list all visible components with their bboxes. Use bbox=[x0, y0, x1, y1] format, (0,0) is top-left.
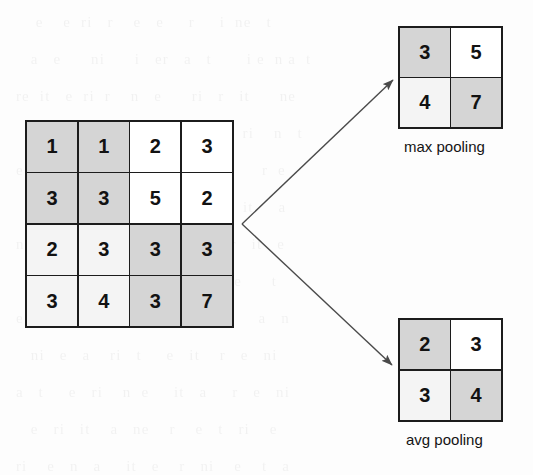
input-cell-r2c1: 3 bbox=[79, 225, 129, 275]
max-cell-r0c0: 3 bbox=[400, 28, 450, 77]
input-cell-r1c0: 3 bbox=[27, 173, 77, 223]
arrow-to-max-pooling bbox=[242, 80, 393, 224]
input-cell-r2c2: 3 bbox=[130, 225, 180, 275]
input-cell-r0c1: 1 bbox=[79, 122, 129, 172]
avg-cell-r0c1: 3 bbox=[451, 320, 501, 369]
avg-pooling-caption: avg pooling bbox=[406, 431, 483, 448]
avg-cell-r1c0: 3 bbox=[400, 371, 450, 420]
input-cell-r3c0: 3 bbox=[27, 276, 77, 326]
avg-pooling-output-grid: 2 3 3 4 bbox=[398, 318, 503, 422]
max-cell-r1c1: 7 bbox=[451, 78, 501, 127]
input-cell-r1c1: 3 bbox=[79, 173, 129, 223]
arrow-to-avg-pooling bbox=[242, 224, 392, 365]
avg-cell-r0c0: 2 bbox=[400, 320, 450, 369]
input-cell-r3c3: 7 bbox=[182, 276, 232, 326]
input-cell-r0c2: 2 bbox=[130, 122, 180, 172]
max-pooling-output-grid: 3 5 4 7 bbox=[398, 26, 503, 129]
max-pooling-caption: max pooling bbox=[404, 138, 485, 155]
input-cell-r1c2: 5 bbox=[130, 173, 180, 223]
avg-cell-r1c1: 4 bbox=[451, 371, 501, 420]
input-cell-r2c0: 2 bbox=[27, 225, 77, 275]
input-cell-r1c3: 2 bbox=[182, 173, 232, 223]
input-cell-r3c2: 3 bbox=[130, 276, 180, 326]
input-cell-r0c3: 3 bbox=[182, 122, 232, 172]
input-cell-r2c3: 3 bbox=[182, 225, 232, 275]
figure-canvas: e e ri r e e r i ne t a e ni i er a t i … bbox=[0, 0, 533, 475]
input-feature-map-grid: 1 1 2 3 3 3 5 2 2 3 3 3 3 4 3 7 bbox=[25, 120, 234, 328]
input-cell-r3c1: 4 bbox=[79, 276, 129, 326]
max-cell-r0c1: 5 bbox=[451, 28, 501, 77]
input-cell-r0c0: 1 bbox=[27, 122, 77, 172]
max-cell-r1c0: 4 bbox=[400, 78, 450, 127]
